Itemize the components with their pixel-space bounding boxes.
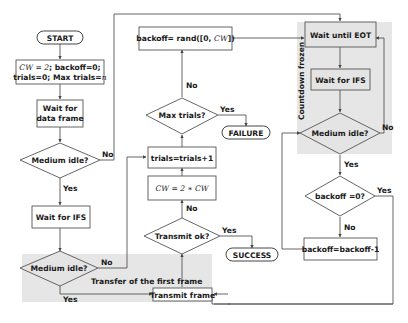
transmit-ok-decision: Transmit ok? [144,218,220,254]
transmit-frame-box: Transmit frame [150,288,215,301]
edge-label-no-transmitok: No [186,204,198,213]
edge-label-yes-mi3: Yes [343,160,359,169]
backoff-decrement-box: backoff=backoff-1 [302,238,379,260]
edge-label-no-backoffzero: No [344,223,356,232]
edge-label-yes-transmitok: Yes [221,226,237,235]
medium-idle-1-label: Medium idle? [32,156,89,165]
failure-terminal: FAILURE [222,126,270,139]
backoff-rand-end: ]) [228,34,235,43]
wait-data-frame-box: Wait for data frame [36,100,83,127]
start-terminal: START [37,31,83,44]
init-line1-text: ; backoff=0; [49,63,101,72]
init-cw-math: CW = 2 [19,63,49,72]
wait-ifs-left-label: Wait for IFS [36,213,87,222]
backoff-zero-decision: backoff =0? [305,176,375,216]
edge-label-yes-mi1: Yes [62,184,78,193]
edge-label-yes-mi2: Yes [62,295,78,304]
backoff-rand-cw: CW [214,34,229,43]
transmit-ok-label: Transmit ok? [155,232,210,241]
svg-text:backoff= rand([0, CW]): backoff= rand([0, CW]) [136,34,234,43]
wait-ifs-left-box: Wait for IFS [32,206,90,228]
edge-label-no-mi3: No [382,123,394,132]
edge-label-no-mi1: No [102,150,114,159]
trials-increment-box: trials=trials+1 [148,147,216,168]
max-trials-label: Max trials? [159,111,206,120]
init-line2-text: trials=0; Max trials= [13,73,101,82]
backoff-zero-label: backoff =0? [315,192,365,201]
wait-ifs-right-box: Wait for IFS [311,69,370,90]
max-trials-decision: Max trials? [146,98,218,134]
wait-data-line2: data frame [36,114,83,123]
backoff-rand-box: backoff= rand([0, CW]) [136,27,234,50]
svg-text:CW = 2; backoff=0;: CW = 2; backoff=0; [19,63,100,72]
backoff-decrement-label: backoff=backoff-1 [302,245,379,254]
start-label: START [47,34,74,43]
cw-double-box: CW = 2 ∗ CW [148,176,216,200]
success-label: SUCCESS [233,251,272,260]
medium-idle-2-label: Medium idle? [31,264,88,273]
backoff-rand-text: backoff= rand([0, [136,34,214,43]
trials-increment-label: trials=trials+1 [151,154,213,163]
medium-idle-decision-1: Medium idle? [20,143,100,178]
edge-label-no-maxtrials: No [186,81,198,90]
svg-text:trials=0; Max trials=n: trials=0; Max trials=n [13,73,106,82]
edge-label-yes-backoffzero: Yes [376,186,392,195]
transmit-frame-label: Transmit frame [150,291,215,300]
init-box: CW = 2; backoff=0; trials=0; Max trials=… [13,60,106,84]
wait-eot-label: Wait until EOT [310,31,372,40]
edge-label-no-mi2: No [101,258,113,267]
wait-eot-box: Wait until EOT [305,22,376,47]
cw-double-label: CW = 2 ∗ CW [155,184,209,193]
flowchart: START FAILURE SUCCESS CW = 2; backoff=0;… [0,0,408,323]
edge-label-yes-maxtrials: Yes [219,105,235,114]
wait-ifs-right-label: Wait for IFS [315,76,366,85]
region-label-transfer-first-frame: Transfer of the first frame [91,277,202,286]
medium-idle-3-label: Medium idle? [312,129,369,138]
success-terminal: SUCCESS [226,248,278,261]
failure-label: FAILURE [229,129,264,138]
init-n-math: n [102,73,107,82]
wait-data-line1: Wait for [43,104,78,113]
region-label-countdown-frozen: Countdown frozen [297,42,306,120]
